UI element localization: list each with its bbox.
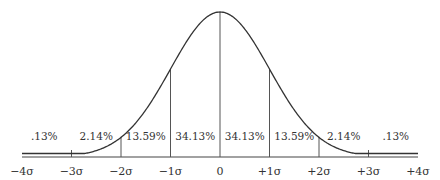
region-percent-label: 34.13% [175, 130, 215, 142]
region-percent-label: .13% [382, 130, 409, 142]
region-percent-label: 13.59% [274, 130, 314, 142]
x-tick-label: −4σ [10, 165, 34, 178]
x-tick-label: −2σ [109, 165, 133, 178]
x-tick-label: −1σ [159, 165, 183, 178]
sigma-lines [72, 12, 369, 157]
x-tick-label: −3σ [60, 165, 84, 178]
region-percent-label: 2.14% [327, 130, 360, 142]
x-tick-label: 0 [217, 165, 224, 178]
x-tick-label: +2σ [307, 165, 331, 178]
region-percent-label: 2.14% [80, 130, 113, 142]
normal-distribution-chart: .13%2.14%13.59%34.13%34.13%13.59%2.14%.1… [0, 0, 440, 180]
region-percent-label: 13.59% [126, 130, 166, 142]
region-percent-label: 34.13% [225, 130, 265, 142]
x-tick-label: +1σ [258, 165, 282, 178]
x-tick-label: +3σ [357, 165, 381, 178]
region-percent-label: .13% [31, 130, 58, 142]
x-tick-label: +4σ [406, 165, 430, 178]
x-tick-labels: −4σ−3σ−2σ−1σ0+1σ+2σ+3σ+4σ [10, 165, 430, 178]
